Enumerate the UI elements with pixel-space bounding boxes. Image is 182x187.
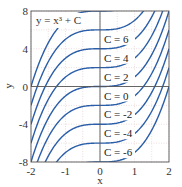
y-tick-label: 0 <box>23 81 29 93</box>
curve-label: C = 0 <box>104 90 129 102</box>
x-tick-label: -1 <box>61 165 70 177</box>
y-tick-label: -4 <box>19 118 29 130</box>
y-tick-label: 8 <box>23 5 29 17</box>
curve-label: C = 6 <box>104 33 129 45</box>
curve-label: C = 2 <box>104 71 129 83</box>
y-axis-label: y <box>2 83 14 89</box>
y-tick-label: -8 <box>19 156 29 168</box>
curve-label: C = -6 <box>104 146 133 158</box>
curve-label: C = -2 <box>104 108 132 120</box>
annotation: y = x³ + C <box>36 14 81 26</box>
x-tick-label: 1 <box>132 165 138 177</box>
chart: C = 6C = 4C = 2C = 0C = -2C = -4C = -6 y… <box>0 0 182 187</box>
curve-labels: C = 6C = 4C = 2C = 0C = -2C = -4C = -6 <box>102 33 135 158</box>
x-axis-label: x <box>97 174 103 186</box>
x-tick-label: 2 <box>166 165 172 177</box>
axes <box>31 11 169 162</box>
y-tick-label: 4 <box>23 43 29 55</box>
curve-label: C = 4 <box>104 52 129 64</box>
curve-label: C = -4 <box>104 127 133 139</box>
